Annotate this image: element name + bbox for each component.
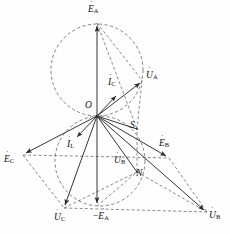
label-U-B-mid: ˙UB [114, 156, 125, 166]
phasor-dot-icon: ˙ [6, 151, 9, 159]
label-neg-E-A: −˙EA [93, 212, 109, 222]
construction-lines [23, 23, 207, 212]
phasor-dot-icon: ˙ [116, 152, 119, 160]
node-O [96, 115, 99, 118]
phasor-vectors [26, 26, 204, 210]
phasor-diagram-canvas [0, 0, 230, 235]
label-E-B: ˙EB [159, 139, 169, 149]
vector-I-L [77, 116, 97, 137]
phasor-dot-icon: ˙ [161, 135, 164, 143]
line-U-A-to-N [137, 80, 142, 172]
label-N: N [136, 169, 142, 179]
phasor-dot-icon: ˙ [56, 209, 59, 217]
line-N-to-U-B [137, 172, 207, 212]
phasor-diagram-figure: ˙EA ˙EB ˙EC −˙EA ˙UA ˙UB ˙UB ˙UC ˙IC ˙IL… [0, 0, 230, 235]
node-S [136, 128, 138, 130]
label-U-C: ˙UC [54, 213, 65, 223]
phasor-dot-icon: ˙ [211, 207, 214, 215]
label-S: S [130, 121, 135, 131]
phasor-dot-icon: ˙ [68, 136, 71, 144]
label-I-C: ˙IC [108, 78, 116, 88]
line-U-C-to-U-B [64, 208, 207, 212]
line-E-C-to-E-B [23, 155, 169, 158]
phasor-dot-icon: ˙ [148, 67, 151, 75]
label-E-C: ˙EC [4, 155, 14, 165]
line-E-A-to-U-A [97, 23, 142, 80]
vector-E-C [26, 116, 97, 153]
vector-U-C [65, 116, 97, 205]
label-U-A: ˙UA [146, 71, 158, 81]
phasor-dot-icon: ˙ [90, 1, 93, 9]
label-O: O [85, 101, 92, 111]
label-I-L: ˙IL [67, 140, 74, 150]
line-E-B-to-U-B [169, 158, 207, 212]
line-E-C-to-U-C [23, 155, 64, 208]
phasor-dot-icon: ˙ [102, 208, 105, 216]
vector-U-A [97, 83, 140, 116]
vector-I-C [97, 96, 116, 116]
phasor-dot-icon: ˙ [109, 74, 112, 82]
label-U-B: ˙UB [209, 211, 220, 221]
label-E-A: ˙EA [88, 5, 99, 15]
